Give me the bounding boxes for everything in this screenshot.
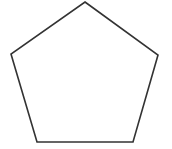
canvas-background (0, 0, 172, 149)
pentagon-figure (0, 0, 172, 149)
drawing-canvas (0, 0, 172, 149)
